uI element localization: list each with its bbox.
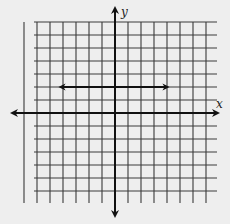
y-axis-label: y [120,5,128,19]
axes [14,10,216,214]
x-axis-label: x [216,97,223,111]
coordinate-plane: x y [0,0,230,224]
